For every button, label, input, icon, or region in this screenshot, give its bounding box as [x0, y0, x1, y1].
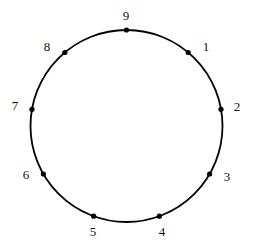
- vertex-point-3: [207, 171, 212, 176]
- vertex-label-4: 4: [159, 225, 166, 238]
- vertex-point-4: [157, 214, 162, 219]
- vertex-point-2: [218, 107, 223, 112]
- vertex-label-5: 5: [90, 225, 97, 238]
- vertex-point-6: [41, 171, 46, 176]
- vertex-point-7: [29, 107, 34, 112]
- circle-point-diagram: 123456789: [0, 0, 253, 246]
- circle-outline: [31, 30, 223, 222]
- vertex-label-7: 7: [12, 99, 19, 112]
- vertex-label-2: 2: [234, 100, 241, 113]
- vertex-label-8: 8: [44, 40, 51, 53]
- vertex-point-8: [62, 50, 67, 55]
- vertex-label-3: 3: [224, 170, 231, 183]
- diagram-canvas: [0, 0, 253, 246]
- vertex-label-9: 9: [123, 9, 130, 22]
- vertex-label-1: 1: [203, 40, 210, 53]
- vertex-point-5: [91, 214, 96, 219]
- vertex-point-9: [124, 27, 129, 32]
- vertex-point-1: [186, 50, 191, 55]
- vertex-dot-group: [29, 27, 223, 218]
- vertex-label-6: 6: [23, 168, 30, 181]
